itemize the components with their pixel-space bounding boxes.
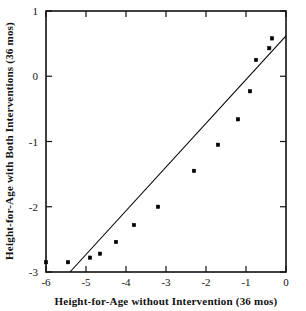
data-point (98, 252, 101, 255)
data-point (88, 256, 91, 259)
data-point (248, 90, 251, 93)
data-point (132, 223, 135, 226)
data-point (192, 169, 195, 172)
data-point (66, 261, 69, 264)
x-tick-label: -3 (161, 276, 171, 288)
data-point (114, 240, 117, 243)
data-point (44, 261, 47, 264)
x-tick-label: -4 (121, 276, 131, 288)
x-tick-label: -2 (201, 276, 210, 288)
chart-figure: -6-5-4-3-2-10 -3-2-101 Height-for-Age wi… (0, 0, 306, 311)
data-point (254, 58, 257, 61)
x-tick-label: -1 (241, 276, 250, 288)
x-tick-label: 0 (283, 276, 289, 288)
data-point (156, 205, 159, 208)
y-tick-label: -1 (29, 136, 38, 148)
x-tick-label: -6 (41, 276, 51, 288)
data-point (236, 118, 239, 121)
y-tick-label: -3 (29, 266, 39, 278)
scatter-plot: -6-5-4-3-2-10 -3-2-101 Height-for-Age wi… (0, 0, 306, 311)
y-tick-label: -2 (29, 201, 38, 213)
data-point (268, 46, 271, 49)
x-tick-label: -5 (81, 276, 91, 288)
x-axis-title: Height-for-Age without Intervention (36 … (55, 295, 278, 308)
data-point (216, 143, 219, 146)
y-axis-title: Height-for-Age with Both Interventions (… (3, 22, 16, 260)
y-tick-label: 1 (33, 5, 39, 17)
y-tick-label: 0 (33, 70, 39, 82)
data-point (270, 37, 273, 40)
